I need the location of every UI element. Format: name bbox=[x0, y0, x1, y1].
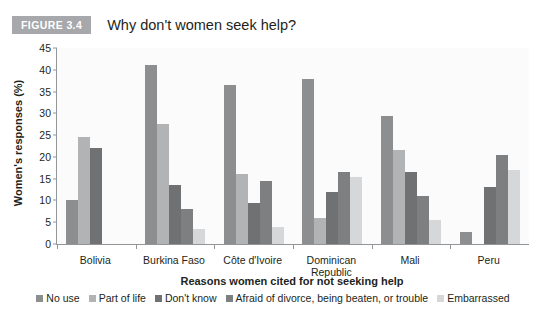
legend-swatch-icon bbox=[155, 295, 162, 302]
figure-number-badge: FIGURE 3.4 bbox=[12, 16, 91, 34]
bar bbox=[405, 172, 417, 244]
bar-set bbox=[302, 48, 362, 244]
bar-group bbox=[57, 48, 136, 244]
chart-legend: No usePart of lifeDon't knowAfraid of di… bbox=[0, 292, 546, 304]
bar-set bbox=[460, 48, 520, 244]
bar bbox=[157, 124, 169, 244]
y-axis-tick-label: 10 bbox=[9, 194, 57, 206]
y-axis-tick-label: 20 bbox=[9, 151, 57, 163]
bar bbox=[66, 200, 78, 244]
bar-group bbox=[293, 48, 372, 244]
chart-container: Women's responses (%) 051015202530354045… bbox=[0, 42, 546, 287]
legend-label: Afraid of divorce, being beaten, or trou… bbox=[236, 292, 429, 304]
x-axis-tick-mark bbox=[214, 244, 215, 249]
bar bbox=[393, 150, 405, 244]
bar-set bbox=[66, 48, 126, 244]
x-axis-tick-mark bbox=[136, 244, 137, 249]
bar bbox=[78, 137, 90, 244]
legend-swatch-icon bbox=[437, 295, 444, 302]
bar-set bbox=[224, 48, 284, 244]
figure-header: FIGURE 3.4 Why don't women seek help? bbox=[0, 14, 546, 36]
x-axis-tick-mark bbox=[372, 244, 373, 249]
bar bbox=[496, 155, 508, 244]
x-axis-tick-mark bbox=[57, 244, 58, 249]
bar-set bbox=[145, 48, 205, 244]
bar bbox=[260, 181, 272, 244]
figure-title: Why don't women seek help? bbox=[107, 17, 296, 33]
bar bbox=[417, 196, 429, 244]
bar-group bbox=[450, 48, 529, 244]
legend-item: Embarrassed bbox=[437, 292, 509, 304]
plot-area: 051015202530354045 bbox=[56, 48, 529, 245]
bar bbox=[484, 187, 496, 244]
y-axis-tick-label: 15 bbox=[9, 173, 57, 185]
y-axis-tick-label: 25 bbox=[9, 129, 57, 141]
legend-swatch-icon bbox=[89, 295, 96, 302]
bar bbox=[272, 227, 284, 244]
legend-swatch-icon bbox=[226, 295, 233, 302]
legend-item: Don't know bbox=[155, 292, 217, 304]
bar bbox=[181, 209, 193, 244]
legend-label: Don't know bbox=[165, 292, 217, 304]
x-axis-tick-mark bbox=[293, 244, 294, 249]
bar bbox=[381, 116, 393, 244]
bar bbox=[236, 174, 248, 244]
bar bbox=[326, 192, 338, 244]
y-axis-tick-label: 45 bbox=[9, 42, 57, 54]
bar bbox=[460, 232, 472, 244]
bar bbox=[508, 170, 520, 244]
legend-item: No use bbox=[36, 292, 79, 304]
y-axis-tick-label: 0 bbox=[9, 238, 57, 250]
bar-groups bbox=[57, 48, 529, 244]
x-axis-title: Reasons women cited for not seeking help bbox=[56, 275, 528, 287]
bar bbox=[429, 220, 441, 244]
bar bbox=[224, 85, 236, 244]
y-axis-tick-label: 30 bbox=[9, 107, 57, 119]
bar-group bbox=[136, 48, 215, 244]
y-axis-tick-label: 5 bbox=[9, 216, 57, 228]
legend-item: Afraid of divorce, being beaten, or trou… bbox=[226, 292, 429, 304]
bar bbox=[145, 65, 157, 244]
legend-swatch-icon bbox=[36, 295, 43, 302]
bar-group bbox=[214, 48, 293, 244]
x-axis-tick-mark bbox=[450, 244, 451, 249]
y-axis-tick-label: 35 bbox=[9, 86, 57, 98]
bar bbox=[169, 185, 181, 244]
bar bbox=[338, 172, 350, 244]
legend-item: Part of life bbox=[89, 292, 146, 304]
bar bbox=[193, 229, 205, 244]
bar bbox=[350, 177, 362, 245]
bar bbox=[302, 79, 314, 245]
bar-set bbox=[381, 48, 441, 244]
legend-label: Part of life bbox=[99, 292, 146, 304]
bar bbox=[248, 203, 260, 244]
legend-label: Embarrassed bbox=[447, 292, 509, 304]
legend-label: No use bbox=[46, 292, 79, 304]
y-axis-tick-label: 40 bbox=[9, 64, 57, 76]
bar-group bbox=[372, 48, 451, 244]
bar bbox=[90, 148, 102, 244]
bar bbox=[314, 218, 326, 244]
